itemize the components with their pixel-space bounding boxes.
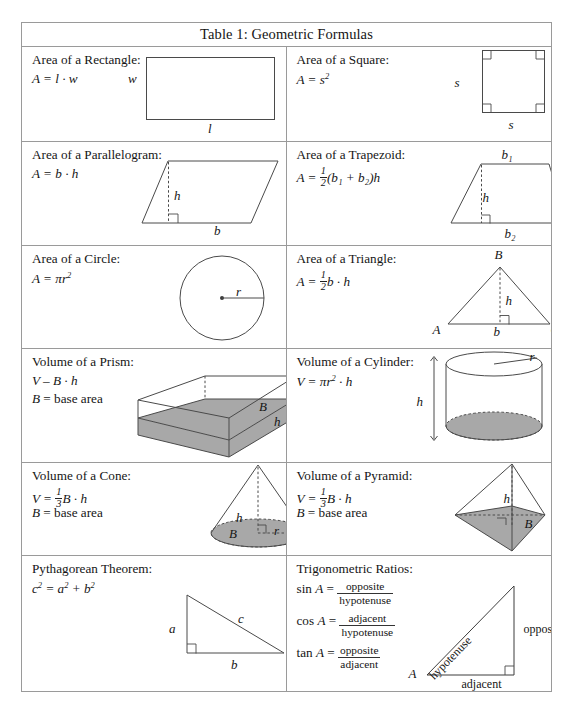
formula-table: Table 1: Geometric Formulas Area of a Re… [21,22,552,692]
label-r: r [236,284,241,300]
cell-parallelogram: Area of a Parallelogram: A = b · h h b [22,142,287,245]
cone-diagram [204,463,287,555]
label-a: a [169,621,176,637]
cell-formula: V – B · h [32,373,78,389]
label-h: h [504,491,511,507]
cylinder-diagram [427,351,552,456]
cell-formula-2: B = base area [32,505,103,521]
label-B: B [525,516,533,532]
table-row: Area of a Parallelogram: A = b · h h b A… [22,142,551,246]
cell-formula: A = πr2 [32,270,71,287]
label-b2: b₂ [505,226,516,242]
label-b: b [214,223,221,239]
table-row: Pythagorean Theorem: c2 = a2 + b2 a c b … [22,556,551,692]
prism-diagram [118,375,287,460]
label-adjacent: adjacent [462,677,502,692]
label-b1: b₁ [502,147,513,163]
label-h: h [483,190,490,206]
pyramid-diagram [449,463,552,555]
label-h: h [236,510,243,526]
label-l: l [208,121,212,137]
label-s-side: s [455,75,460,91]
cell-cylinder: Volume of a Cylinder: V = πr2 · h r h [287,349,552,462]
label-w: w [128,71,137,87]
label-B: B [495,247,503,263]
cell-trigonometric: Trigonometric Ratios: sin A = oppositehy… [287,556,552,692]
table-row: Area of a Rectangle: A = l · w w l Area … [22,47,551,142]
square-diagram [482,50,552,130]
cell-formula-2: B = base area [32,391,103,407]
label-C: C [551,322,552,338]
ratio-tan: tan A = oppositeadjacent [297,644,381,670]
cell-label: Area of a Trapezoid: [297,147,406,163]
cell-pyramid: Volume of a Pyramid: V = 13B · h B = bas… [287,463,552,555]
label-h: h [506,293,513,309]
ratio-sin: sin A = oppositehypotenuse [297,580,393,606]
page-title: Table 1: Geometric Formulas [200,26,373,43]
cell-formula: A = 12(b₁ + b₂)h [297,166,381,188]
cell-label: Volume of a Pyramid: [297,468,413,484]
cell-formula: A = s2 [297,71,330,88]
cell-label: Area of a Rectangle: [32,52,141,68]
cell-formula: V = πr2 · h [297,373,353,390]
ratio-cos: cos A = adjacenthypotenuse [297,612,396,638]
cell-formula: c2 = a2 + b2 [32,580,95,597]
cell-formula: A = l · w [32,71,78,87]
fn-sin: sin A = [297,581,338,596]
cell-label: Area of a Triangle: [297,251,397,267]
cell-pythagorean: Pythagorean Theorem: c2 = a2 + b2 a c b [22,556,287,692]
cell-label: Area of a Circle: [32,251,120,267]
label-opposite: opposite [524,622,552,637]
cell-prism: Volume of a Prism: V – B · h B = base ar… [22,349,287,462]
label-b: b [494,324,501,340]
table-row: Area of a Circle: A = πr2 r Area of a Tr… [22,246,551,349]
trapezoid-diagram [450,163,552,243]
cell-label: Volume of a Prism: [32,354,134,370]
table-row: Volume of a Prism: V – B · h B = base ar… [22,349,551,463]
cell-trapezoid: Area of a Trapezoid: A = 12(b₁ + b₂)h b₁… [287,142,552,245]
cell-label: Area of a Square: [297,52,390,68]
label-c: c [238,611,244,627]
label-b: b [231,657,238,673]
cell-formula: A = 12b · h [297,270,351,292]
fn-cos: cos A = [297,613,340,628]
label-h: h [417,394,424,410]
fraction-tan: oppositeadjacent [338,644,380,670]
rectangle-diagram [146,57,286,127]
cell-label: Volume of a Cone: [32,468,131,484]
circle-diagram [178,252,287,348]
cell-label: Trigonometric Ratios: [297,561,413,577]
fraction-cos: adjacenthypotenuse [339,612,395,638]
cell-circle: Area of a Circle: A = πr2 r [22,246,287,348]
table-row: Volume of a Cone: V = 13B · h B = base a… [22,463,551,556]
label-s-bottom: s [509,117,514,133]
fraction-one-half: 12 [320,270,327,292]
label-A: A [409,666,417,682]
label-A: A [433,322,441,338]
label-B: B [259,399,267,415]
cell-triangle: Area of a Triangle: A = 12b · h B h A b … [287,246,552,348]
table-title-row: Table 1: Geometric Formulas [22,23,551,47]
cell-label: Volume of a Cylinder: [297,354,414,370]
cell-rectangle: Area of a Rectangle: A = l · w w l [22,47,287,141]
label-h: h [174,188,181,204]
cell-square: Area of a Square: A = s2 s s [287,47,552,141]
cell-cone: Volume of a Cone: V = 13B · h B = base a… [22,463,287,555]
label-r: r [530,349,535,365]
cell-formula: A = b · h [32,166,78,182]
fraction-one-half: 12 [320,166,327,188]
label-r: r [274,523,279,539]
cell-formula-2: B = base area [297,505,368,521]
label-B: B [229,526,237,542]
label-h: h [274,414,281,430]
fraction-sin: oppositehypotenuse [337,580,393,606]
fn-tan: tan A = [297,645,339,660]
cell-label: Pythagorean Theorem: [32,561,152,577]
